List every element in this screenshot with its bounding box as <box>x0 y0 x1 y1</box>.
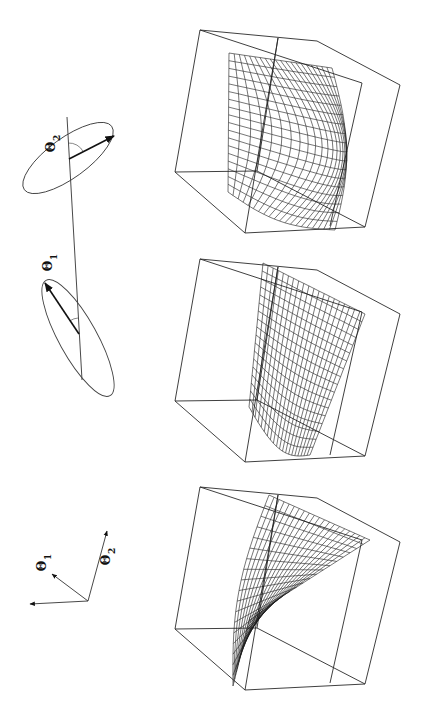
mesh-line-u <box>269 59 308 217</box>
mesh-line-u <box>255 268 273 417</box>
surface-panels <box>175 30 400 690</box>
label-theta1-text: Θ <box>41 261 55 271</box>
mesh-line-u <box>258 271 278 423</box>
cube-outline <box>175 30 400 233</box>
cube-edge <box>175 171 257 172</box>
rotation-ellipses: Θ2Θ1 <box>13 110 127 405</box>
label-theta2: Θ2 <box>44 135 62 152</box>
mesh-line-u <box>290 62 333 224</box>
axis-label-theta1-subscript: 1 <box>43 554 53 560</box>
angle-arc-theta2 <box>68 143 83 152</box>
mesh-line-u <box>280 289 315 450</box>
mesh-line-v <box>229 107 346 133</box>
cube-edge <box>257 628 365 684</box>
mesh-line-v <box>269 495 370 540</box>
mesh-line-u <box>292 299 335 456</box>
cube-outline <box>175 259 400 462</box>
figure-canvas: Θ2Θ1 Θ1Θ2 <box>0 0 422 723</box>
axis-label-theta2-subscript: 2 <box>107 548 117 554</box>
mesh-line-v <box>247 559 330 566</box>
mesh-line-v <box>265 506 363 545</box>
mesh-line-u <box>295 301 340 455</box>
axis-label-theta1-text: Θ <box>35 561 49 571</box>
axis-arrow-theta1 <box>52 574 88 601</box>
panel-bottom <box>175 487 400 690</box>
label-theta2-subscript: 2 <box>52 135 62 141</box>
cube-outline <box>175 487 400 690</box>
cube-edge <box>330 540 362 683</box>
axis-arrow-unlabeled <box>30 601 88 604</box>
rotation-diagram: Θ2Θ1 <box>13 110 127 405</box>
cube-edge <box>175 400 257 401</box>
mesh-line-u <box>238 509 299 666</box>
cube-edge <box>257 400 365 456</box>
coordinate-axes: Θ1Θ2 <box>30 531 117 604</box>
axis-label-theta1: Θ1 <box>35 554 53 571</box>
rotation-ellipse-theta1: Θ1 <box>29 254 126 405</box>
panel-top <box>175 30 400 233</box>
axis-label-theta2-text: Θ <box>99 555 113 565</box>
angle-arc-theta1 <box>70 318 78 321</box>
mesh-line-v <box>229 53 332 68</box>
wireframe-surface-bulge <box>228 53 347 230</box>
ellipse-theta2 <box>13 110 124 206</box>
ellipse-theta1 <box>29 271 126 405</box>
wireframe-surface-twist <box>233 495 370 686</box>
label-theta1-subscript: 1 <box>49 254 59 260</box>
label-theta2-text: Θ <box>44 142 58 152</box>
wireframe-surface-saddle <box>249 263 365 456</box>
rotation-ellipse-theta2: Θ2 <box>13 110 124 206</box>
mesh-line-v <box>229 84 341 105</box>
rotation-arrow-theta1 <box>45 283 79 334</box>
panel-middle <box>175 259 400 462</box>
mesh-line-u <box>245 527 340 638</box>
mesh-line-u <box>248 56 272 206</box>
label-theta1: Θ1 <box>41 254 59 271</box>
